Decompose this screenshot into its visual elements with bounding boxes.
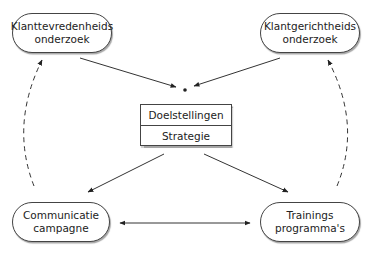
node-label-line2: programma's bbox=[275, 222, 345, 235]
arrow-topright-to-center bbox=[194, 58, 280, 86]
node-label-line1: Klanttevredenheids bbox=[11, 20, 113, 33]
arrow-center-to-bottomleft bbox=[88, 154, 164, 192]
node-label-line2: onderzoek bbox=[283, 33, 338, 46]
node-label-line2: campagne bbox=[33, 222, 88, 235]
center-row-strategie: Strategie bbox=[141, 125, 231, 146]
node-label-line1: Klantgerichtheids bbox=[264, 20, 356, 33]
center-row-doelstellingen: Doelstellingen bbox=[141, 105, 231, 125]
node-label-line1: Trainings bbox=[287, 209, 334, 222]
arrow-topleft-to-center bbox=[80, 58, 176, 87]
node-trainingsprogrammas: Trainings programma's bbox=[260, 202, 360, 242]
arrow-center-to-bottomright bbox=[204, 154, 288, 192]
arrow-dashed-left bbox=[24, 60, 42, 186]
node-klantgerichtheidsonderzoek: Klantgerichtheids onderzoek bbox=[260, 13, 360, 53]
junction-dot bbox=[183, 88, 187, 92]
node-klanttevredenheidsonderzoek: Klanttevredenheids onderzoek bbox=[12, 13, 112, 53]
arrow-dashed-right bbox=[328, 60, 348, 186]
node-label-line1: Communicatie bbox=[23, 209, 99, 222]
node-label-line2: onderzoek bbox=[35, 33, 90, 46]
node-communicatiecampagne: Communicatie campagne bbox=[12, 202, 110, 242]
center-box: Doelstellingen Strategie bbox=[140, 104, 232, 146]
